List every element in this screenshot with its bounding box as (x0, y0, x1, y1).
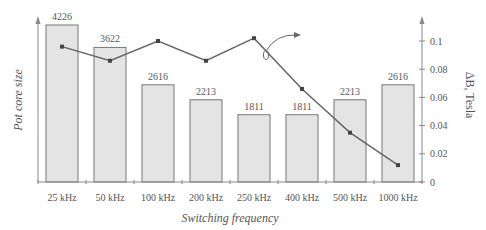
bars (46, 25, 414, 182)
x-tick-label: 25 kHz (47, 192, 77, 203)
y2-tick-label: 0 (430, 177, 435, 188)
y2-tick-label: 0.06 (430, 92, 448, 103)
x-tick-label: 250 kHz (237, 192, 272, 203)
line-marker (252, 36, 256, 40)
y-axis-right-arrow-icon (420, 16, 425, 24)
line-marker (60, 45, 64, 49)
line-marker (204, 59, 208, 63)
bar-value-label: 3622 (100, 33, 120, 44)
line-marker (300, 87, 304, 91)
line-marker (156, 39, 160, 43)
x-tick-label: 1000 kHz (378, 192, 418, 203)
x-axis-title: Switching frequency (181, 211, 279, 225)
x-tick-label: 400 kHz (285, 192, 320, 203)
bar-value-label: 4226 (52, 11, 72, 22)
x-tick-label: 100 kHz (141, 192, 176, 203)
y2-tick-label: 0.1 (430, 36, 443, 47)
x-tick-label: 50 kHz (95, 192, 125, 203)
bar-value-label: 2616 (388, 71, 408, 82)
bar-value-label: 2616 (148, 71, 168, 82)
y2-tick-label: 0.02 (430, 148, 448, 159)
chart: 422625 kHz362250 kHz2616100 kHz2213200 k… (0, 0, 486, 230)
x-tick-label: 500 kHz (333, 192, 368, 203)
bar-value-label: 1811 (244, 101, 264, 112)
line-marker (396, 163, 400, 167)
bar (382, 85, 414, 182)
y-axis-right-title: ΔB, Tesla (463, 72, 477, 119)
bar (286, 115, 318, 182)
bar (238, 115, 270, 182)
y-axis-left-title: Pot core size (11, 69, 25, 132)
y2-tick-label: 0.04 (430, 120, 448, 131)
bar (142, 85, 174, 182)
annotation-arrowhead-icon (294, 32, 301, 38)
bar-value-label: 1811 (292, 101, 312, 112)
line-marker (348, 131, 352, 135)
bar-value-label: 2213 (196, 86, 216, 97)
y-axis-left-arrow-icon (36, 16, 41, 24)
x-tick-label: 200 kHz (189, 192, 224, 203)
bar (94, 47, 126, 182)
y2-tick-label: 0.08 (430, 64, 448, 75)
bar-value-label: 2213 (340, 86, 360, 97)
annotation-arrow (266, 35, 296, 51)
bar (190, 100, 222, 182)
line-marker (108, 59, 112, 63)
